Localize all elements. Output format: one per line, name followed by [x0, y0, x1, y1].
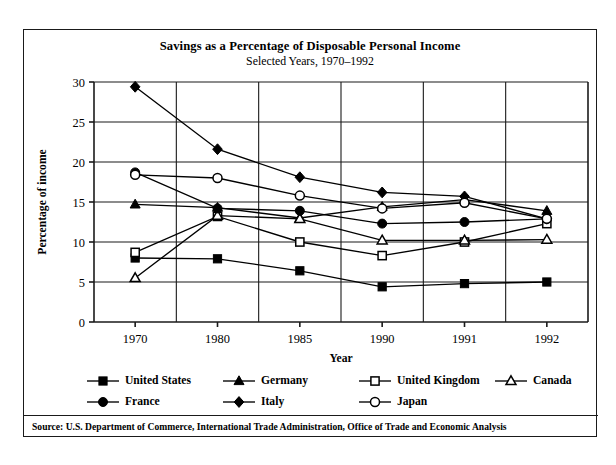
legend-item-united-kingdom[interactable]: United Kingdom [358, 374, 494, 388]
data-point-0-1 [213, 255, 221, 263]
data-point-6-0 [131, 170, 140, 179]
open-square-icon [358, 374, 392, 388]
open-triangle-icon [494, 374, 528, 388]
data-point-6-5 [542, 214, 551, 223]
data-point-5-3 [377, 187, 387, 198]
x-tick-label-1991: 1991 [452, 332, 477, 346]
chart-legend: United StatesGermanyUnited KingdomCanada… [24, 370, 598, 414]
x-tick-label-1990: 1990 [370, 332, 395, 346]
source-note: Source: U.S. Department of Commerce, Int… [32, 420, 592, 433]
legend-item-germany[interactable]: Germany [222, 374, 358, 388]
legend-item-united-states[interactable]: United States [86, 374, 222, 388]
data-point-2-0 [131, 248, 139, 256]
filled-diamond-icon [222, 395, 256, 409]
title-block: Savings as a Percentage of Disposable Pe… [24, 38, 596, 69]
data-point-5-2 [295, 172, 305, 183]
x-tick-label-1985: 1985 [287, 332, 312, 346]
y-axis-label: Percentage of income [36, 149, 49, 254]
legend-row-2: FranceItalyJapan [24, 391, 598, 412]
data-point-5-0 [130, 81, 140, 92]
filled-square-icon [86, 374, 120, 388]
y-tick-label-10: 10 [73, 236, 85, 250]
y-tick-label-5: 5 [79, 276, 85, 290]
x-tick-label-1970: 1970 [123, 332, 148, 346]
figure-frame: Savings as a Percentage of Disposable Pe… [23, 29, 597, 437]
y-tick-label-30: 30 [73, 76, 85, 90]
legend-row-1: United StatesGermanyUnited KingdomCanada [24, 370, 598, 391]
data-point-2-2 [296, 238, 304, 246]
data-point-0-5 [543, 278, 551, 286]
chart-page: Savings as a Percentage of Disposable Pe… [0, 0, 616, 465]
plot-area: 051015202530197019801985199019911992Year… [24, 70, 598, 370]
data-point-0-4 [460, 280, 468, 288]
legend-item-italy[interactable]: Italy [222, 395, 358, 409]
legend-label: United Kingdom [397, 374, 480, 387]
legend-label: Germany [261, 374, 308, 387]
data-point-4-3 [378, 219, 387, 228]
data-point-4-1 [213, 204, 222, 213]
chart-subtitle: Selected Years, 1970–1992 [24, 54, 596, 69]
x-tick-label-1980: 1980 [205, 332, 230, 346]
data-point-3-5 [542, 234, 552, 243]
legend-label: Japan [397, 395, 427, 408]
data-point-4-2 [295, 206, 304, 215]
source-divider [24, 415, 598, 416]
data-point-6-2 [295, 191, 304, 200]
x-tick-label-1992: 1992 [534, 332, 559, 346]
open-circle-icon [358, 395, 392, 409]
legend-item-japan[interactable]: Japan [358, 395, 494, 409]
data-point-3-0 [130, 273, 140, 282]
data-point-0-2 [296, 267, 304, 275]
page-title: Savings as a Percentage of Disposable Pe… [24, 38, 596, 54]
data-point-2-3 [378, 252, 386, 260]
y-tick-label-20: 20 [73, 156, 85, 170]
data-point-5-1 [213, 144, 223, 155]
data-point-1-0 [130, 199, 140, 208]
legend-item-france[interactable]: France [86, 395, 222, 409]
data-point-4-4 [460, 218, 469, 227]
legend-item-canada[interactable]: Canada [494, 374, 616, 388]
data-point-6-3 [378, 204, 387, 213]
x-axis-label: Year [329, 352, 352, 365]
legend-label: Canada [533, 374, 572, 387]
y-tick-label-15: 15 [73, 196, 85, 210]
y-tick-label-0: 0 [79, 316, 85, 330]
filled-circle-icon [86, 395, 120, 409]
data-point-6-4 [460, 198, 469, 207]
legend-label: France [125, 395, 160, 408]
data-point-6-1 [213, 174, 222, 183]
legend-label: Italy [261, 395, 284, 408]
y-tick-label-25: 25 [73, 116, 85, 130]
legend-label: United States [125, 374, 191, 387]
data-point-0-3 [378, 283, 386, 291]
filled-triangle-icon [222, 374, 256, 388]
line-chart-svg: 051015202530197019801985199019911992Year… [24, 70, 598, 370]
